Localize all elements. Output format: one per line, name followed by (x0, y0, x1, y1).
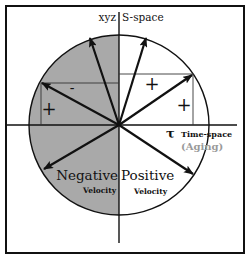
positive-sub-label: Velocity (133, 187, 168, 196)
axis-label-xyz: xyz (99, 11, 117, 23)
sign-right-top: + (144, 73, 159, 94)
diagram-canvas: - + + + xyz S-space τ Time-space (Aging)… (0, 0, 247, 257)
axis-label-time-space: Time-space (181, 129, 232, 139)
sign-left-top: - (70, 80, 75, 96)
tau-symbol: τ (166, 126, 175, 141)
spacetime-velocity-diagram: - + + + xyz S-space τ Time-space (Aging)… (0, 0, 247, 257)
positive-label: Positive (121, 167, 174, 183)
sign-right-side: + (176, 94, 191, 115)
negative-label: Negative (56, 167, 118, 183)
axis-label-s-space: S-space (122, 11, 164, 23)
negative-sub-label: Velocity (82, 186, 117, 195)
axis-label-aging: (Aging) (181, 141, 223, 152)
sign-left-side: + (41, 98, 56, 119)
